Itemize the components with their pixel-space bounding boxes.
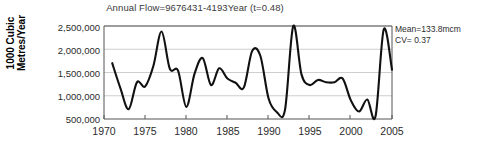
chart-figure: Annual Flow=9676431-4193Year (t=0.48) 10… — [0, 0, 483, 143]
annotation-mean: Mean=133.8mcm — [395, 24, 461, 34]
y-axis-title-line2: Metres/Year — [16, 0, 27, 91]
y-axis-ticks: 2,500,000 2,000,000 1,500,000 1,000,000 … — [38, 0, 100, 143]
x-tick-label: 2000 — [339, 125, 362, 137]
x-axis-tickmarks — [104, 115, 392, 119]
annotation-cv: CV= 0.37 — [395, 35, 431, 45]
x-tick-label: 1980 — [174, 125, 197, 137]
line-chart-svg — [104, 26, 392, 119]
y-axis-title: 1000 Cubic Metres/Year — [5, 0, 27, 91]
y-axis-title-line1: 1000 Cubic — [5, 0, 16, 91]
y-tick-label: 500,000 — [66, 114, 100, 125]
y-tick-label: 2,500,000 — [58, 22, 100, 33]
y-tick-label: 1,000,000 — [58, 91, 100, 102]
plot-area — [104, 26, 392, 119]
x-tick-label: 1990 — [257, 125, 280, 137]
y-tick-label: 1,500,000 — [58, 68, 100, 79]
y-tick-label: 2,000,000 — [58, 45, 100, 56]
x-tick-label: 1970 — [92, 125, 115, 137]
x-tick-label: 2005 — [380, 125, 403, 137]
x-tick-label: 1995 — [298, 125, 321, 137]
x-tick-label: 1975 — [133, 125, 156, 137]
x-tick-label: 1985 — [216, 125, 239, 137]
